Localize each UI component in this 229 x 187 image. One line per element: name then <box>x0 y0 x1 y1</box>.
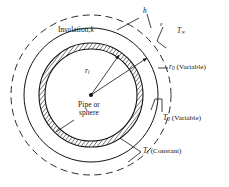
convection-coefficient-label: h <box>143 7 147 15</box>
ambient-temperature-label: T∞ <box>177 27 185 36</box>
ambient-temp-subscript: ∞ <box>181 29 185 35</box>
thermal-conductivity-symbol: k <box>91 25 94 34</box>
outer-temperature-label: T0 (Variable) <box>163 114 201 123</box>
inner-temp-leader <box>120 138 141 152</box>
outer-radius-note: (Variable) <box>175 63 206 71</box>
outer-radius-label: r0 (Variable) <box>169 63 206 72</box>
inner-temp-note: (Constant) <box>149 147 182 155</box>
insulation-leader-line <box>117 18 139 30</box>
h-leader-line <box>147 14 151 28</box>
inner-radius-label: ri <box>85 67 90 76</box>
outer-temp-note: (Variable) <box>170 114 201 122</box>
insulation-label-text: Insulation, <box>58 25 91 34</box>
inner-temperature-label: Ti (Constant) <box>143 147 182 156</box>
figure-container: Insulation,k h ε T∞ ri r0 (Variable) T0 … <box>0 0 229 187</box>
body-label: Pipe or sphere <box>63 101 115 118</box>
ambient-leader-line <box>157 41 166 48</box>
inner-radius-subscript: i <box>88 69 90 75</box>
outer-temp-leader-tail <box>151 99 155 110</box>
epsilon-leader-line <box>157 27 163 41</box>
emissivity-label: ε <box>160 20 163 27</box>
inner-temp-leader-tail <box>128 152 141 162</box>
diagram-canvas <box>0 0 229 187</box>
insulation-label: Insulation,k <box>58 26 94 34</box>
body-label-line2: sphere <box>63 109 115 117</box>
